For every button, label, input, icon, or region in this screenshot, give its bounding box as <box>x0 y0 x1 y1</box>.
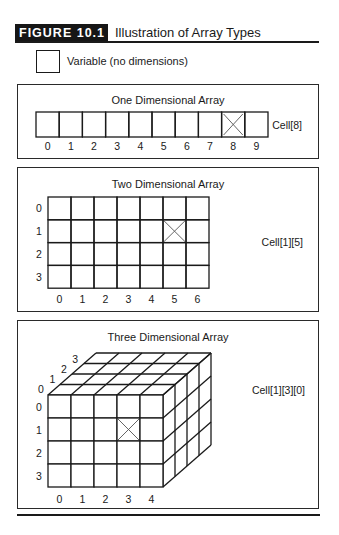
array-cell <box>140 197 163 220</box>
array-cell <box>140 441 163 464</box>
index-label: 3 <box>114 140 120 152</box>
index-label: 5 <box>161 140 167 152</box>
row-index-label: 3 <box>36 470 42 482</box>
array-cell <box>117 464 140 487</box>
array-diagrams: One Dimensional Array0123456789Cell[8]Tw… <box>0 0 339 535</box>
array-cell <box>175 112 198 137</box>
array-cell <box>94 197 117 220</box>
array-cell <box>71 395 94 418</box>
array-cell <box>48 418 71 441</box>
array-cell <box>106 112 129 137</box>
array-cell <box>71 464 94 487</box>
cell-reference-label: Cell[1][5] <box>262 236 304 248</box>
array-cell <box>163 265 186 288</box>
depth-index-label: 1 <box>49 373 55 385</box>
array-cell <box>71 197 94 220</box>
array-cell <box>71 441 94 464</box>
array-cell <box>48 395 71 418</box>
array-cell <box>94 418 117 441</box>
array-cell <box>117 441 140 464</box>
array-cell <box>82 112 105 137</box>
index-label: 6 <box>184 140 190 152</box>
array-cell <box>117 197 140 220</box>
array-cell <box>117 220 140 243</box>
array-cell <box>48 464 71 487</box>
column-index-label: 2 <box>103 493 109 505</box>
array-cell <box>186 197 209 220</box>
two-dimensional-title: Two Dimensional Array <box>112 178 225 190</box>
one-dimensional-title: One Dimensional Array <box>111 94 225 106</box>
depth-index-label: 0 <box>38 383 44 395</box>
array-cell <box>36 112 59 137</box>
column-index-label: 4 <box>149 493 155 505</box>
array-cell <box>48 220 71 243</box>
column-index-label: 0 <box>57 293 63 305</box>
array-cell <box>94 265 117 288</box>
row-index-label: 1 <box>36 225 42 237</box>
column-index-label: 5 <box>172 293 178 305</box>
array-cell <box>48 441 71 464</box>
column-index-label: 1 <box>80 493 86 505</box>
array-cell <box>48 243 71 266</box>
three-dimensional-title: Three Dimensional Array <box>107 331 229 343</box>
row-index-label: 2 <box>36 248 42 260</box>
array-cell <box>94 243 117 266</box>
array-cell <box>163 197 186 220</box>
column-index-label: 0 <box>57 493 63 505</box>
column-index-label: 3 <box>126 293 132 305</box>
index-label: 7 <box>207 140 213 152</box>
array-cell <box>163 243 186 266</box>
array-cell <box>117 265 140 288</box>
array-cell <box>71 418 94 441</box>
array-cell <box>140 464 163 487</box>
array-cell <box>94 395 117 418</box>
index-label: 2 <box>91 140 97 152</box>
array-cell <box>140 265 163 288</box>
row-index-label: 0 <box>36 401 42 413</box>
row-index-label: 1 <box>36 424 42 436</box>
index-label: 1 <box>68 140 74 152</box>
array-cell <box>186 265 209 288</box>
array-cell <box>59 112 82 137</box>
column-index-label: 4 <box>149 293 155 305</box>
depth-index-label: 2 <box>61 363 67 375</box>
array-cell <box>71 243 94 266</box>
depth-index-label: 3 <box>72 353 78 365</box>
column-index-label: 1 <box>80 293 86 305</box>
array-cell <box>186 243 209 266</box>
array-cell <box>94 441 117 464</box>
array-cell <box>140 395 163 418</box>
array-cell <box>152 112 175 137</box>
row-index-label: 2 <box>36 447 42 459</box>
row-index-label: 3 <box>36 271 42 283</box>
column-index-label: 2 <box>103 293 109 305</box>
array-cell <box>140 243 163 266</box>
array-cell <box>140 418 163 441</box>
array-cell <box>186 220 209 243</box>
array-cell <box>48 197 71 220</box>
row-index-label: 0 <box>36 202 42 214</box>
array-cell <box>198 112 221 137</box>
index-label: 4 <box>137 140 143 152</box>
array-cell <box>71 220 94 243</box>
array-cell <box>140 220 163 243</box>
cell-reference-label: Cell[8] <box>272 119 302 131</box>
array-cell <box>129 112 152 137</box>
index-label: 8 <box>230 140 236 152</box>
column-index-label: 6 <box>195 293 201 305</box>
array-cell <box>71 265 94 288</box>
array-cell <box>117 395 140 418</box>
array-cell <box>94 220 117 243</box>
index-label: 9 <box>253 140 259 152</box>
array-cell <box>48 265 71 288</box>
index-label: 0 <box>45 140 51 152</box>
cell-reference-label: Cell[1][3][0] <box>252 384 305 396</box>
array-cell <box>117 243 140 266</box>
column-index-label: 3 <box>126 493 132 505</box>
array-cell <box>94 464 117 487</box>
array-cell <box>245 112 268 137</box>
